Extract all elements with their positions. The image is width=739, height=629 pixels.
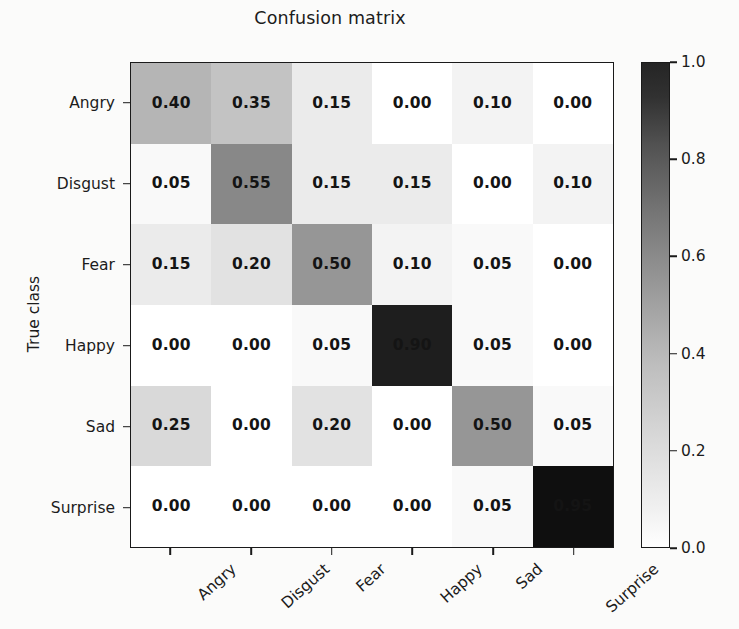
heatmap-cell-value: 0.00 bbox=[152, 338, 191, 354]
colorbar-tick-mark bbox=[670, 547, 677, 549]
heatmap-cell: 0.05 bbox=[292, 305, 372, 386]
heatmap-cell: 0.00 bbox=[452, 144, 532, 225]
heatmap-cell-value: 0.00 bbox=[393, 418, 432, 434]
y-axis-tick-label-disgust: Disgust bbox=[0, 175, 125, 193]
heatmap-plot-area: 0.400.350.150.000.100.000.050.550.150.15… bbox=[130, 62, 614, 548]
y-axis-tick-label-surprise: Surprise bbox=[0, 499, 125, 517]
heatmap-cell-value: 0.40 bbox=[152, 96, 191, 112]
heatmap-cell-value: 0.05 bbox=[152, 176, 191, 192]
x-axis-tick-label-surprise: Surprise bbox=[602, 560, 662, 616]
heatmap-cell-value: 0.00 bbox=[473, 176, 512, 192]
heatmap-cell-value: 0.95 bbox=[553, 499, 592, 515]
heatmap-cell: 0.00 bbox=[372, 63, 452, 144]
heatmap-cell-value: 0.05 bbox=[473, 338, 512, 354]
heatmap-cell: 0.40 bbox=[131, 63, 211, 144]
heatmap-cell-value: 0.05 bbox=[312, 338, 351, 354]
colorbar-tick-label-0.0: 0.0 bbox=[681, 539, 706, 557]
colorbar-tick-mark bbox=[670, 61, 677, 63]
heatmap-cell: 0.15 bbox=[372, 144, 452, 225]
heatmap-cell-value: 0.00 bbox=[152, 499, 191, 515]
heatmap-cell: 0.10 bbox=[452, 63, 532, 144]
heatmap-cell: 0.05 bbox=[452, 305, 532, 386]
heatmap-cell: 0.00 bbox=[211, 305, 291, 386]
x-axis-tick-mark bbox=[331, 548, 333, 555]
colorbar-tick-label-0.2: 0.2 bbox=[681, 442, 706, 460]
colorbar-gradient bbox=[641, 62, 670, 548]
y-axis-tick-label-happy: Happy bbox=[0, 337, 125, 355]
x-axis-tick-mark bbox=[250, 548, 252, 555]
y-axis-tick-label-sad: Sad bbox=[0, 418, 125, 436]
heatmap-cell: 0.50 bbox=[452, 386, 532, 467]
heatmap-cell-value: 0.15 bbox=[312, 176, 351, 192]
colorbar-tick-mark bbox=[670, 353, 677, 355]
heatmap-cell-value: 0.10 bbox=[393, 257, 432, 273]
x-axis-tick-mark bbox=[492, 548, 494, 555]
heatmap-cell: 0.05 bbox=[533, 386, 613, 467]
heatmap-cell: 0.10 bbox=[533, 144, 613, 225]
heatmap-cell-value: 0.05 bbox=[473, 499, 512, 515]
heatmap-cell-value: 0.00 bbox=[553, 257, 592, 273]
heatmap-cell: 0.90 bbox=[372, 305, 452, 386]
chart-canvas: Confusion matrix True class 0.400.350.15… bbox=[0, 0, 739, 629]
colorbar[interactable] bbox=[641, 62, 670, 548]
x-axis-tick-label-fear: Fear bbox=[352, 560, 389, 596]
heatmap-cell-value: 0.55 bbox=[232, 176, 271, 192]
y-axis-tick-label-fear: Fear bbox=[0, 256, 125, 274]
x-axis-tick-label-sad: Sad bbox=[512, 560, 546, 593]
heatmap-cell-value: 0.15 bbox=[152, 257, 191, 273]
heatmap-cell-value: 0.00 bbox=[553, 96, 592, 112]
colorbar-tick-label-0.6: 0.6 bbox=[681, 247, 706, 265]
heatmap-cell: 0.35 bbox=[211, 63, 291, 144]
heatmap-cell-value: 0.05 bbox=[473, 257, 512, 273]
heatmap-cell-value: 0.15 bbox=[312, 96, 351, 112]
heatmap-cell-value: 0.25 bbox=[152, 418, 191, 434]
colorbar-tick-label-1.0: 1.0 bbox=[681, 53, 706, 71]
heatmap-cell: 0.05 bbox=[452, 224, 532, 305]
y-axis-tick-mark bbox=[123, 264, 130, 266]
heatmap-cell: 0.05 bbox=[131, 144, 211, 225]
heatmap-cell: 0.20 bbox=[211, 224, 291, 305]
heatmap-cell-value: 0.00 bbox=[232, 499, 271, 515]
heatmap-cell: 0.15 bbox=[292, 144, 372, 225]
heatmap-cell-value: 0.00 bbox=[312, 499, 351, 515]
colorbar-tick-mark bbox=[670, 158, 677, 160]
heatmap-cell-value: 0.00 bbox=[393, 96, 432, 112]
y-axis-tick-mark bbox=[123, 102, 130, 104]
x-axis-tick-mark bbox=[170, 548, 172, 555]
heatmap-cell-value: 0.10 bbox=[473, 96, 512, 112]
y-axis-tick-mark bbox=[123, 426, 130, 428]
heatmap-cell: 0.10 bbox=[372, 224, 452, 305]
y-axis-tick-mark bbox=[123, 345, 130, 347]
heatmap-cell-value: 0.05 bbox=[553, 418, 592, 434]
heatmap-cell: 0.00 bbox=[372, 386, 452, 467]
heatmap-cell: 0.55 bbox=[211, 144, 291, 225]
heatmap-cell: 0.00 bbox=[131, 466, 211, 547]
heatmap-cell-value: 0.50 bbox=[473, 418, 512, 434]
y-axis-tick-label-angry: Angry bbox=[0, 94, 125, 112]
heatmap-cell-value: 0.00 bbox=[232, 338, 271, 354]
heatmap-cell: 0.00 bbox=[533, 224, 613, 305]
page-title: Confusion matrix bbox=[0, 8, 660, 28]
x-axis-tick-label-disgust: Disgust bbox=[278, 560, 333, 612]
heatmap-cell-value: 0.00 bbox=[232, 418, 271, 434]
heatmap-cell: 0.20 bbox=[292, 386, 372, 467]
heatmap-cell-value: 0.15 bbox=[393, 176, 432, 192]
heatmap-cell-value: 0.00 bbox=[553, 338, 592, 354]
colorbar-tick-label-0.4: 0.4 bbox=[681, 345, 706, 363]
colorbar-tick-mark bbox=[670, 450, 677, 452]
heatmap-cell: 0.00 bbox=[292, 466, 372, 547]
heatmap-cell: 0.00 bbox=[131, 305, 211, 386]
heatmap-cell: 0.00 bbox=[211, 466, 291, 547]
heatmap-cell: 0.95 bbox=[533, 466, 613, 547]
heatmap-cell-value: 0.35 bbox=[232, 96, 271, 112]
heatmap-cell: 0.15 bbox=[131, 224, 211, 305]
heatmap-cell: 0.25 bbox=[131, 386, 211, 467]
x-axis-tick-mark bbox=[573, 548, 575, 555]
x-axis-tick-mark bbox=[412, 548, 414, 555]
colorbar-tick-mark bbox=[670, 256, 677, 258]
heatmap-cell-value: 0.90 bbox=[393, 338, 432, 354]
y-axis-tick-mark bbox=[123, 183, 130, 185]
heatmap-cell: 0.00 bbox=[211, 386, 291, 467]
heatmap-cell-value: 0.50 bbox=[312, 257, 351, 273]
heatmap-cell: 0.15 bbox=[292, 63, 372, 144]
